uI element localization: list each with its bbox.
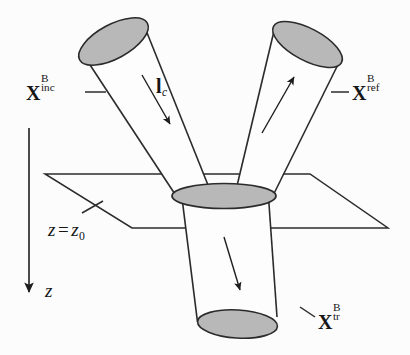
transmitted-label-subscript: tr [333, 311, 340, 322]
transmitted-beam-cylinder [182, 197, 278, 340]
transmitted-label-base: X [318, 311, 332, 333]
plane-equals: = [58, 219, 69, 240]
incident-beam-label: XBinc [26, 80, 79, 103]
plane-position-label: z=z0 [48, 220, 85, 242]
reflected-beam-label: XBref [352, 80, 405, 103]
reflected-label-base: X [352, 82, 366, 104]
coherence-length-base: l [156, 75, 162, 97]
transmitted-beam-label: XBtr [318, 309, 371, 332]
reflected-label-scripts: Bref [367, 80, 405, 100]
figure-canvas [0, 0, 410, 355]
plane-variable: z [48, 219, 56, 240]
plane-value-base: z [71, 219, 79, 240]
coherence-length-subscript: c [162, 86, 167, 99]
transmitted-label-scripts: Btr [333, 309, 371, 329]
reflected-label-subscript: ref [367, 82, 379, 93]
incident-label-scripts: Binc [41, 80, 79, 100]
plane-value-subscript: 0 [79, 230, 85, 243]
beam-geometry-figure: XBinc XBref XBtr lc z=z0 z [0, 0, 410, 355]
beam-footprint-ellipse [172, 184, 276, 209]
incident-label-base: X [26, 82, 40, 104]
incident-label-subscript: inc [41, 82, 55, 93]
z-axis-label: z [45, 281, 52, 300]
coherence-length-label: lc [156, 76, 167, 98]
transmitted-label-leader [300, 307, 315, 317]
